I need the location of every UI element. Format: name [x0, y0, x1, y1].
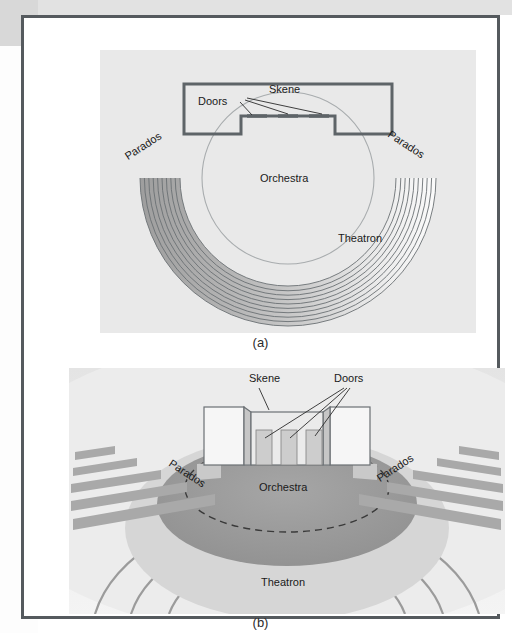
panel-b-perspective-view: Skene Doors Parados Parados Orchestra Th…	[69, 368, 505, 614]
label-orchestra-a: Orchestra	[260, 172, 308, 184]
caption-b: (b)	[24, 615, 497, 630]
figure-frame: Skene Doors Parados Parados Orchestra Th…	[21, 15, 500, 619]
scan-top-band	[0, 0, 512, 15]
skene-building	[204, 407, 370, 465]
label-theatron-b: Theatron	[261, 576, 305, 588]
label-skene-a: Skene	[269, 83, 300, 95]
label-orchestra-b: Orchestra	[259, 481, 307, 493]
figure-page: Skene Doors Parados Parados Orchestra Th…	[0, 0, 512, 633]
label-theatron-a: Theatron	[338, 232, 382, 244]
label-doors-b: Doors	[334, 372, 363, 384]
skene-doorways	[256, 430, 322, 465]
label-skene-b: Skene	[249, 372, 280, 384]
label-doors-a: Doors	[198, 95, 227, 107]
panel-a-plan-view: Skene Doors Parados Parados Orchestra Th…	[100, 50, 476, 333]
caption-a: (a)	[24, 335, 497, 350]
